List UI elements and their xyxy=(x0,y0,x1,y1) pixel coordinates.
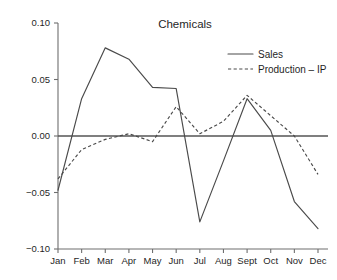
legend-label-production-ip: Production – IP xyxy=(258,64,327,75)
legend-label-sales: Sales xyxy=(258,49,283,60)
x-tick-label: Apr xyxy=(122,255,137,266)
x-tick-label: Jun xyxy=(169,255,184,266)
y-tick-label: −0.05 xyxy=(26,187,50,198)
x-axis-ticks: JanFebMarAprMayJunJulAugSeptOctNovDec xyxy=(50,249,326,266)
chart-legend: Sales Production – IP xyxy=(228,49,327,75)
x-tick-label: Jul xyxy=(194,255,206,266)
x-tick-label: Mar xyxy=(97,255,113,266)
series-line-production-ip xyxy=(58,95,318,179)
x-tick-label: May xyxy=(144,255,162,266)
chart-title: Chemicals xyxy=(158,18,212,30)
y-tick-label: 0.00 xyxy=(32,130,51,141)
x-tick-label: Oct xyxy=(263,255,278,266)
chart-canvas: Chemicals 0.100.050.00−0.05−0.10 JanFebM… xyxy=(0,0,337,280)
x-tick-label: Dec xyxy=(310,255,327,266)
x-tick-label: Jan xyxy=(50,255,65,266)
y-axis-ticks: 0.100.050.00−0.05−0.10 xyxy=(26,17,58,254)
y-tick-label: −0.10 xyxy=(26,243,50,254)
series-line-sales xyxy=(58,48,318,229)
x-tick-label: Nov xyxy=(286,255,303,266)
x-tick-label: Aug xyxy=(215,255,232,266)
x-tick-label: Sept xyxy=(237,255,257,266)
y-tick-label: 0.05 xyxy=(32,74,51,85)
x-tick-label: Feb xyxy=(73,255,89,266)
y-tick-label: 0.10 xyxy=(32,17,51,28)
chart-figure: Chemicals 0.100.050.00−0.05−0.10 JanFebM… xyxy=(0,0,337,280)
